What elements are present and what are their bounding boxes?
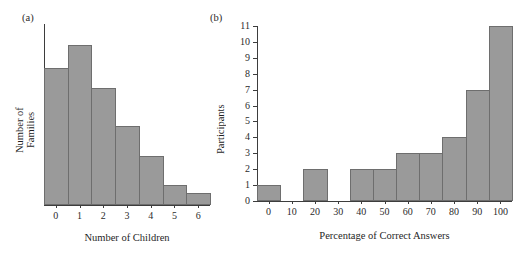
panel-b-x-tick-label: 20: [303, 206, 327, 217]
panel-b-y-tick: [253, 58, 257, 59]
panel-b-y-tick: [253, 74, 257, 75]
panel-b-x-tick-label: 100: [488, 206, 512, 217]
panel-b-y-tick-label: 3: [229, 147, 250, 158]
panel-a-y-axis-label: Number of Families: [14, 95, 26, 165]
panel-b-bar: [373, 169, 397, 201]
panel-b-x-tick: [361, 201, 362, 204]
panel-b-y-tick-label: 9: [229, 52, 250, 63]
panel-a-x-tick: [80, 205, 81, 208]
panel-b-x-tick-label: 80: [442, 206, 466, 217]
panel-a-x-tick-label: 5: [164, 210, 184, 221]
figure-two-histograms: (a) Number of Families 0123456 Number of…: [0, 0, 521, 255]
panel-b-y-tick-label: 7: [229, 84, 250, 95]
panel-b-x-tick: [292, 201, 293, 204]
panel-b-y-tick: [253, 121, 257, 122]
panel-b-x-tick: [477, 201, 478, 204]
panel-a-x-tick-label: 0: [46, 210, 66, 221]
panel-b-x-tick: [500, 201, 501, 204]
panel-b-bar: [489, 26, 513, 201]
panel-b-x-tick: [385, 201, 386, 204]
panel-b-tag: (b): [210, 12, 222, 23]
panel-b-y-axis: [257, 26, 258, 202]
panel-b: (b) Participants 01020304050607080901000…: [205, 0, 521, 255]
panel-a-bar: [91, 88, 116, 205]
panel-b-y-tick: [253, 169, 257, 170]
panel-a-bar: [44, 68, 69, 205]
panel-b-plot-area: 010203040506070809010001234567891011: [257, 26, 512, 202]
panel-b-y-tick: [253, 153, 257, 154]
panel-b-y-tick-label: 6: [229, 100, 250, 111]
panel-b-y-tick-label: 8: [229, 68, 250, 79]
panel-a-x-tick: [151, 205, 152, 208]
panel-b-x-tick-label: 30: [326, 206, 350, 217]
panel-b-y-tick-label: 1: [229, 179, 250, 190]
panel-a-bar: [163, 185, 188, 205]
panel-a-x-tick: [198, 205, 199, 208]
panel-b-y-tick: [253, 137, 257, 138]
panel-b-x-tick: [454, 201, 455, 204]
panel-b-x-tick: [269, 201, 270, 204]
panel-a-bar: [139, 156, 164, 205]
panel-b-y-tick: [253, 106, 257, 107]
panel-b-y-tick: [253, 42, 257, 43]
panel-b-bar: [419, 153, 443, 201]
panel-b-y-tick-label: 5: [229, 115, 250, 126]
panel-b-bar: [466, 90, 490, 201]
panel-b-y-tick-label: 4: [229, 131, 250, 142]
panel-b-bar: [303, 169, 327, 201]
panel-b-x-tick: [408, 201, 409, 204]
panel-a-plot-area: 0123456: [44, 24, 210, 206]
panel-b-x-tick: [338, 201, 339, 204]
panel-a-tag: (a): [22, 12, 34, 23]
panel-a-bar: [68, 45, 93, 205]
panel-b-y-tick: [253, 185, 257, 186]
panel-a-x-tick-label: 1: [70, 210, 90, 221]
panel-b-bar: [396, 153, 420, 201]
panel-b-y-tick: [253, 90, 257, 91]
panel-b-y-tick: [253, 26, 257, 27]
panel-a-bar: [115, 126, 140, 205]
panel-a-x-tick: [103, 205, 104, 208]
panel-a: (a) Number of Families 0123456 Number of…: [0, 0, 215, 255]
panel-b-x-tick: [431, 201, 432, 204]
panel-b-bar: [442, 137, 466, 201]
panel-b-x-axis-label: Percentage of Correct Answers: [257, 230, 512, 241]
panel-a-x-tick: [127, 205, 128, 208]
panel-b-bar: [257, 185, 281, 201]
panel-b-x-tick-label: 90: [465, 206, 489, 217]
panel-b-y-tick-label: 11: [229, 20, 250, 31]
panel-a-x-tick-label: 4: [141, 210, 161, 221]
panel-b-x-tick: [315, 201, 316, 204]
panel-b-y-tick-label: 10: [229, 36, 250, 47]
panel-a-x-tick: [174, 205, 175, 208]
panel-b-x-tick-label: 60: [396, 206, 420, 217]
panel-b-y-tick-label: 2: [229, 163, 250, 174]
panel-b-y-axis-label: Participants: [215, 94, 227, 164]
panel-a-x-tick-label: 3: [117, 210, 137, 221]
panel-b-x-tick-label: 10: [280, 206, 304, 217]
panel-b-x-tick-label: 0: [257, 206, 281, 217]
panel-b-x-tick-label: 40: [349, 206, 373, 217]
panel-b-x-tick-label: 70: [419, 206, 443, 217]
panel-b-x-tick-label: 50: [373, 206, 397, 217]
panel-a-x-axis-label: Number of Children: [44, 232, 210, 243]
panel-b-y-tick-label: 0: [229, 195, 250, 206]
panel-a-x-tick-label: 2: [93, 210, 113, 221]
panel-b-bar: [350, 169, 374, 201]
panel-b-y-tick: [253, 201, 257, 202]
panel-a-x-tick: [56, 205, 57, 208]
